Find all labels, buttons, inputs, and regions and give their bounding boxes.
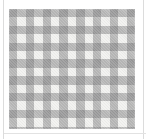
swatch-caption: Gingham check fabric swatch <box>0 0 1 1</box>
image-canvas: Gingham check fabric swatch <box>0 0 150 139</box>
page-rule-left <box>3 0 4 139</box>
gingham-fabric-swatch <box>9 9 135 129</box>
page-rule-bottom <box>4 133 146 134</box>
page-rule-right <box>143 0 144 139</box>
